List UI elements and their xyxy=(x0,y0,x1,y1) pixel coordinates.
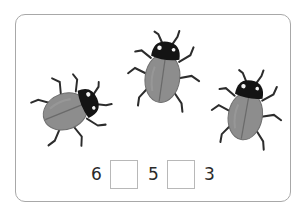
number-second: 5 xyxy=(148,162,159,186)
comparison-blank-1[interactable] xyxy=(110,160,138,189)
comparison-row: 6 5 3 xyxy=(0,159,299,191)
number-third: 3 xyxy=(204,162,215,186)
beetle-middle-icon xyxy=(118,22,208,127)
number-first: 6 xyxy=(91,162,102,186)
beetle-left-icon xyxy=(14,60,124,160)
comparison-blank-2[interactable] xyxy=(167,160,195,189)
beetle-right-icon xyxy=(200,62,292,162)
